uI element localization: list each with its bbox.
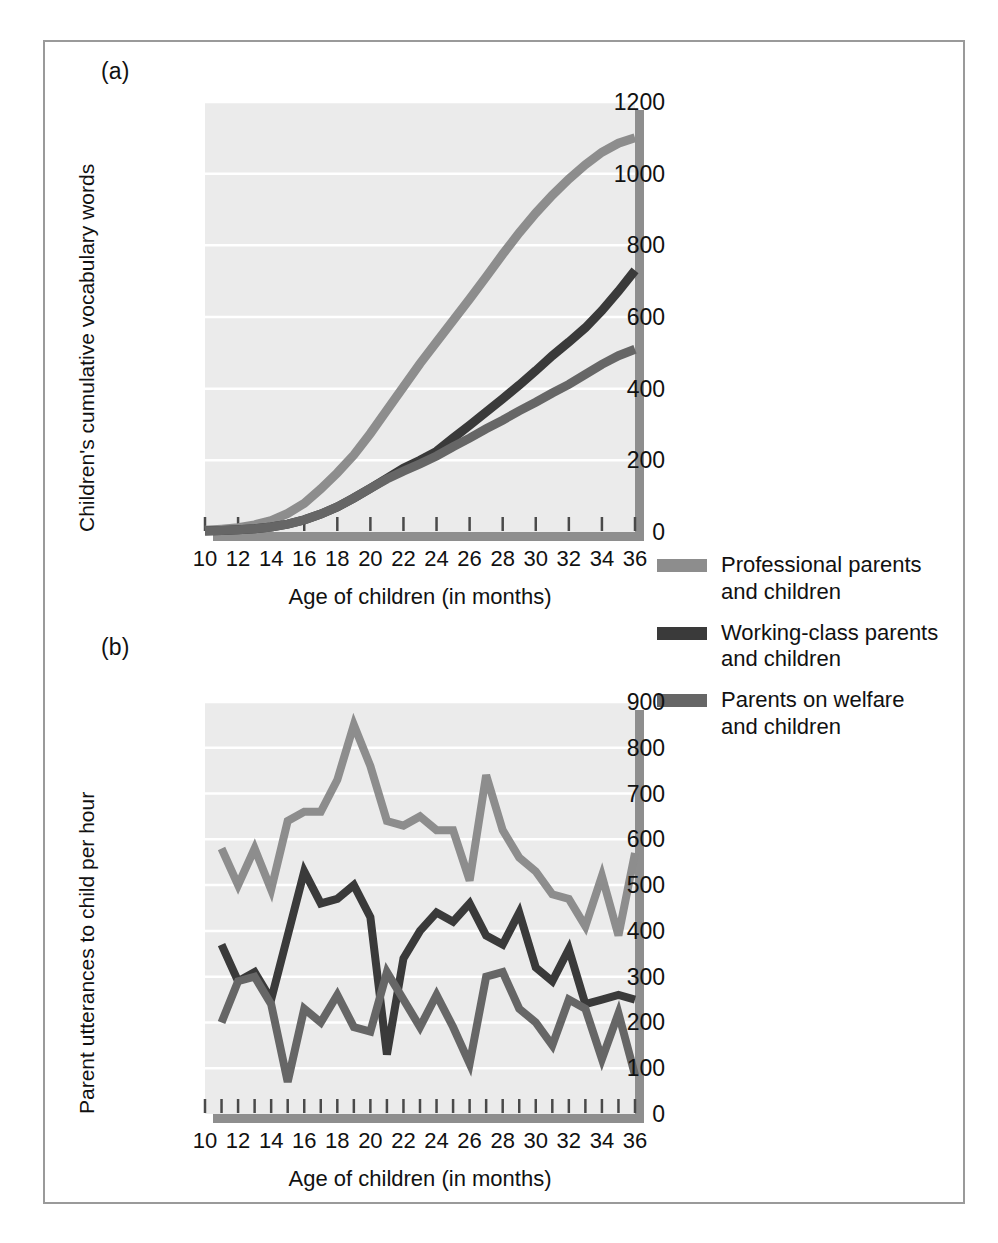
y-axis-tick-label: 800 — [517, 734, 665, 761]
x-axis-tick-label: 16 — [292, 546, 316, 572]
x-axis-tick-label: 10 — [193, 546, 217, 572]
legend-label: Working-class parents and children — [721, 620, 938, 674]
y-axis-tick-label: 200 — [517, 447, 665, 474]
y-axis-tick-label: 800 — [517, 232, 665, 259]
x-axis-tick-label: 14 — [259, 546, 283, 572]
x-axis-tick-label: 14 — [259, 1128, 283, 1154]
y-axis-tick-label: 600 — [517, 826, 665, 853]
y-axis-tick-label: 900 — [517, 689, 665, 716]
y-axis-tick-label: 600 — [517, 304, 665, 331]
x-axis-title: Age of children (in months) — [205, 1166, 635, 1192]
x-axis-tick-label: 24 — [424, 546, 448, 572]
x-axis-tick-label: 28 — [490, 1128, 514, 1154]
x-axis-tick-label: 32 — [557, 546, 581, 572]
x-axis-tick-label: 28 — [490, 546, 514, 572]
x-axis-tick-label: 18 — [325, 546, 349, 572]
y-axis-title: Parent utterances to child per hour — [75, 792, 99, 1114]
x-axis-tick-label: 34 — [590, 546, 614, 572]
x-axis-title: Age of children (in months) — [205, 584, 635, 610]
y-axis-tick-label: 700 — [517, 780, 665, 807]
chart-legend: Professional parents and childrenWorking… — [657, 552, 957, 755]
x-axis-tick-label: 32 — [557, 1128, 581, 1154]
y-axis-tick-label: 100 — [517, 1055, 665, 1082]
panel-b-chart: 0100200300400500600700800900101214161820… — [45, 620, 665, 1200]
y-axis-tick-label: 0 — [517, 1101, 665, 1128]
x-axis-tick-label: 26 — [457, 1128, 481, 1154]
x-axis-tick-label: 16 — [292, 1128, 316, 1154]
x-axis-tick-label: 12 — [226, 546, 250, 572]
y-axis-tick-label: 400 — [517, 917, 665, 944]
x-axis-tick-label: 22 — [391, 1128, 415, 1154]
x-axis-tick-label: 12 — [226, 1128, 250, 1154]
legend-swatch-icon — [657, 559, 707, 572]
y-axis-tick-label: 0 — [517, 519, 665, 546]
y-axis-tick-label: 500 — [517, 872, 665, 899]
figure-frame: (a) 020040060080010001200101214161820222… — [43, 40, 965, 1204]
x-axis-tick-label: 36 — [623, 546, 647, 572]
y-axis-tick-label: 200 — [517, 1009, 665, 1036]
x-axis-tick-label: 26 — [457, 546, 481, 572]
x-axis-tick-label: 20 — [358, 1128, 382, 1154]
x-axis-tick-label: 10 — [193, 1128, 217, 1154]
y-axis-tick-label: 400 — [517, 375, 665, 402]
legend-label: Parents on welfare and children — [721, 687, 904, 741]
x-axis-tick-label: 30 — [524, 546, 548, 572]
y-axis-tick-label: 1200 — [517, 89, 665, 116]
y-axis-title: Children's cumulative vocabulary words — [75, 164, 99, 532]
x-axis-tick-label: 34 — [590, 1128, 614, 1154]
legend-label: Professional parents and children — [721, 552, 922, 606]
x-axis-tick-label: 36 — [623, 1128, 647, 1154]
y-axis-tick-label: 300 — [517, 963, 665, 990]
x-axis-tick-label: 22 — [391, 546, 415, 572]
legend-item: Parents on welfare and children — [657, 687, 957, 741]
panel-a-chart: 0200400600800100012001012141618202224262… — [45, 42, 665, 602]
x-axis-tick-label: 24 — [424, 1128, 448, 1154]
legend-item: Working-class parents and children — [657, 620, 957, 674]
x-axis-tick-label: 30 — [524, 1128, 548, 1154]
legend-item: Professional parents and children — [657, 552, 957, 606]
y-axis-tick-label: 1000 — [517, 160, 665, 187]
x-axis-tick-label: 18 — [325, 1128, 349, 1154]
x-axis-tick-label: 20 — [358, 546, 382, 572]
